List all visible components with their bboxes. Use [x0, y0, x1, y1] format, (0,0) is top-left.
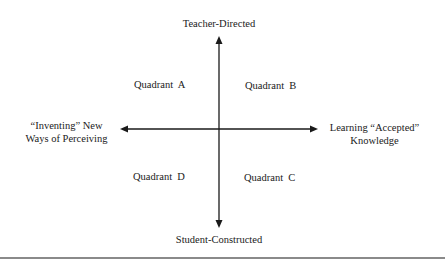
quadrant-b-label: Quadrant B: [245, 79, 296, 92]
axis-left-label-line2: Ways of Perceiving: [14, 132, 119, 145]
axis-left-label: “Inventing” New Ways of Perceiving: [14, 119, 119, 145]
axis-top-label: Teacher-Directed: [170, 17, 268, 30]
bottom-rule: [0, 257, 445, 259]
quadrant-c-label: Quadrant C: [244, 171, 295, 184]
axis-right-label-line2: Knowledge: [312, 134, 437, 147]
axis-left-label-line1: “Inventing” New: [14, 119, 119, 132]
arrow-up-icon: [216, 36, 223, 44]
axis-right-label-line1: Learning “Accepted”: [312, 121, 437, 134]
arrow-down-icon: [216, 220, 223, 228]
quadrant-a-label: Quadrant A: [134, 78, 185, 91]
axis-bottom-label: Student-Constructed: [162, 233, 276, 246]
quadrant-d-label: Quadrant D: [133, 170, 185, 183]
arrow-left-icon: [120, 126, 128, 133]
axis-right-label: Learning “Accepted” Knowledge: [312, 121, 437, 147]
